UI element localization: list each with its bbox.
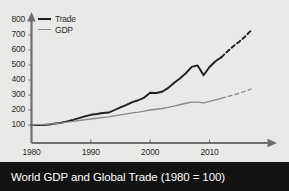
x-axis: [32, 139, 278, 147]
legend-swatch-trade-icon: [38, 18, 51, 20]
y-axis-tick-label: 700: [3, 30, 25, 39]
y-axis-tick-label: 400: [3, 75, 25, 84]
y-axis-tick-label: 800: [3, 15, 25, 24]
y-axis-tick-label: 600: [3, 45, 25, 54]
series-line-trade-projected: [221, 31, 251, 58]
x-axis-tick-label: 1980: [15, 148, 49, 157]
legend-label-gdp: GDP: [55, 25, 73, 35]
legend-item-gdp: GDP: [38, 24, 108, 35]
series-line-gdp: [32, 98, 222, 125]
y-axis: [27, 12, 35, 143]
legend-swatch-gdp-icon: [38, 29, 51, 30]
y-axis-tick-label: 500: [3, 60, 25, 69]
data-series-layer: [32, 31, 252, 126]
series-line-trade: [32, 57, 222, 125]
chart-title: World GDP and Global Trade (1980 = 100): [0, 171, 225, 183]
y-axis-tick-label: 200: [3, 105, 25, 114]
y-axis-tick-label: 100: [3, 120, 25, 129]
legend-label-trade: Trade: [55, 14, 76, 24]
chart-figure: 100200300400500600700800 198019902000201…: [0, 0, 289, 191]
legend-item-trade: Trade: [38, 13, 108, 24]
chart-title-bar: World GDP and Global Trade (1980 = 100): [0, 162, 289, 191]
x-axis-arrowhead: [268, 139, 278, 147]
x-axis-tick-label: 2000: [133, 148, 167, 157]
x-axis-tick-label: 2010: [193, 148, 227, 157]
series-line-gdp-projected: [221, 89, 251, 98]
x-axis-tick-label: 1990: [74, 148, 108, 157]
chart-legend: Trade GDP: [38, 13, 108, 35]
plot-area: 100200300400500600700800 198019902000201…: [0, 0, 289, 162]
y-axis-tick-label: 300: [3, 90, 25, 99]
